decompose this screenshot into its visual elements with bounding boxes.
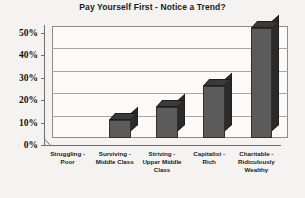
bar-side-face <box>272 15 279 131</box>
y-axis-tick-label: 30% <box>0 73 38 83</box>
bar <box>156 107 178 138</box>
x-axis-category-line: Struggling - <box>44 150 91 158</box>
x-axis-line <box>44 145 281 146</box>
plot-area: 50%40%30%20%10%0% <box>52 26 288 138</box>
x-axis-category-line: Charitable - <box>233 150 280 158</box>
x-axis-category-line: Upper Middle <box>138 158 185 166</box>
bar <box>251 28 273 138</box>
y-axis-tick-label: 50% <box>0 28 38 38</box>
bar <box>109 120 131 138</box>
y-axis-tick-mark <box>41 78 45 79</box>
y-axis-tick-label: 20% <box>0 95 38 105</box>
y-axis-tick-label: 0% <box>0 140 38 150</box>
floor-depth-edge <box>44 138 52 146</box>
x-axis-category-line: Rich <box>186 158 233 166</box>
bar-front-face <box>203 86 225 138</box>
x-axis-category-line: Class <box>138 166 185 174</box>
x-axis-category-line: Poor <box>44 158 91 166</box>
chart-container: Pay Yourself First - Notice a Trend? 50%… <box>0 0 305 198</box>
x-axis-labels: Struggling -PoorSurviving -Middle ClassS… <box>44 150 288 196</box>
chart-title: Pay Yourself First - Notice a Trend? <box>0 2 305 12</box>
x-axis-category-line: Surviving - <box>91 150 138 158</box>
y-axis-tick-label: 10% <box>0 118 38 128</box>
x-axis-category-label: Surviving -Middle Class <box>91 150 138 166</box>
y-axis-tick-mark <box>41 33 45 34</box>
y-axis-tick-mark <box>41 55 45 56</box>
bar-series <box>52 26 288 138</box>
y-axis-tick-mark <box>41 123 45 124</box>
y-axis-tick-label: 40% <box>0 50 38 60</box>
bar-front-face <box>109 120 131 138</box>
x-axis-category-label: Striving -Upper MiddleClass <box>138 150 185 175</box>
x-axis-category-label: Struggling -Poor <box>44 150 91 166</box>
x-axis-category-label: Charitable -RidiculouslyWealthy <box>233 150 280 175</box>
x-axis-category-line: Ridiculously <box>233 158 280 166</box>
x-axis-category-line: Wealthy <box>233 166 280 174</box>
bar-front-face <box>156 107 178 138</box>
bar-front-face <box>251 28 273 138</box>
x-axis-category-label: Capitalist -Rich <box>186 150 233 166</box>
bar <box>203 86 225 138</box>
bar-side-face <box>178 93 185 131</box>
x-axis-category-line: Middle Class <box>91 158 138 166</box>
x-axis-category-line: Capitalist - <box>186 150 233 158</box>
x-axis-category-line: Striving - <box>138 150 185 158</box>
y-axis-tick-mark <box>41 100 45 101</box>
y-axis-tick-mark <box>41 145 45 146</box>
y-axis-line <box>44 25 45 146</box>
